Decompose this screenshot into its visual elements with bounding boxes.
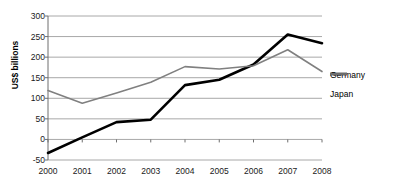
chart-legend: Germany Japan: [330, 70, 365, 99]
legend-item-japan: Japan: [330, 89, 365, 99]
legend-swatch-japan: [330, 70, 347, 78]
series-line-japan: [48, 50, 322, 103]
legend-label-japan: Japan: [330, 89, 353, 99]
line-chart: US$ billions 300250200150100500-50 20002…: [0, 0, 402, 188]
